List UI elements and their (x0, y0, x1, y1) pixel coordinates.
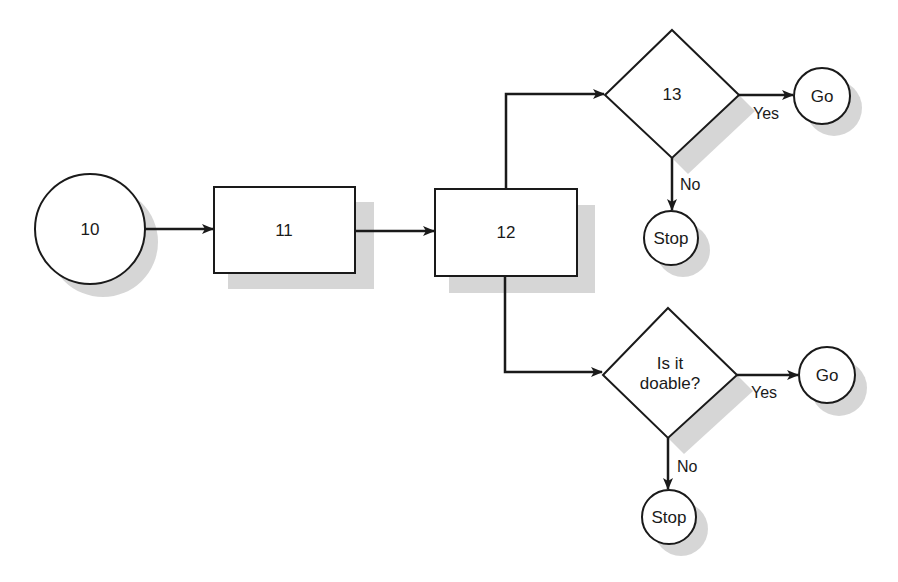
node-12[interactable]: 12 (435, 189, 577, 276)
edge-doable-no-label: No (677, 458, 698, 475)
edge-13-no-label: No (680, 176, 701, 193)
decision-13-label: 13 (663, 85, 682, 104)
flowchart-canvas: 10 11 12 13 Go Stop Is it doable? Go Sto… (0, 0, 898, 582)
stop-top[interactable]: Stop (644, 211, 698, 265)
stop-bottom-label: Stop (652, 508, 687, 527)
node-10[interactable]: 10 (35, 174, 145, 284)
node-10-label: 10 (81, 220, 100, 239)
stop-top-label: Stop (654, 229, 689, 248)
edge-doable-yes-label: Yes (751, 384, 777, 401)
stop-bottom[interactable]: Stop (642, 490, 696, 544)
go-top-label: Go (811, 87, 834, 106)
node-11-label: 11 (275, 221, 293, 240)
go-bottom-label: Go (816, 366, 839, 385)
node-11[interactable]: 11 (214, 187, 355, 273)
decision-doable-label-line1: Is it (657, 354, 684, 373)
edge-12-to-13 (506, 94, 604, 188)
go-bottom[interactable]: Go (799, 347, 855, 403)
shadows (48, 80, 867, 556)
node-12-label: 12 (497, 223, 516, 242)
decision-doable-label-line2: doable? (640, 374, 701, 393)
edge-13-yes-label: Yes (753, 105, 779, 122)
go-top[interactable]: Go (794, 68, 850, 124)
